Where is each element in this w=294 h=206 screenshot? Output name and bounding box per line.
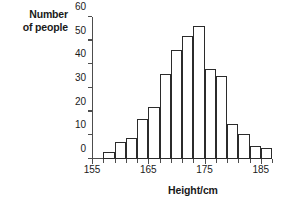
y-axis-tick-label: 30 bbox=[75, 73, 86, 83]
x-axis-tick bbox=[238, 159, 239, 163]
x-axis-tick-label: 165 bbox=[140, 165, 157, 175]
histogram-bar bbox=[171, 50, 182, 159]
histogram-bar bbox=[216, 76, 227, 159]
x-axis-tick bbox=[160, 159, 161, 163]
histogram-bar bbox=[205, 69, 216, 159]
y-axis-tick bbox=[88, 63, 92, 64]
y-axis-title: Number of people bbox=[2, 8, 68, 33]
x-axis-tick bbox=[115, 159, 116, 163]
histogram-bar bbox=[193, 26, 204, 159]
histogram-bar bbox=[250, 146, 261, 159]
x-axis-tick-label: 185 bbox=[252, 165, 269, 175]
y-axis-title-line-1: Number bbox=[2, 8, 68, 21]
x-axis-tick bbox=[182, 159, 183, 163]
y-axis-tick-label: 50 bbox=[75, 26, 86, 36]
x-axis-tick bbox=[137, 159, 138, 163]
x-axis-tick bbox=[126, 159, 127, 163]
histogram-bar bbox=[182, 36, 193, 159]
histogram-bar bbox=[137, 119, 148, 159]
histogram-bar bbox=[238, 134, 249, 159]
histogram-bar bbox=[126, 138, 137, 159]
y-axis-tick-label: 10 bbox=[75, 120, 86, 130]
y-axis-tick bbox=[88, 16, 92, 17]
y-axis-title-line-2: of people bbox=[2, 21, 68, 34]
y-axis-tick-label: 40 bbox=[75, 49, 86, 59]
histogram-bar bbox=[115, 142, 126, 159]
x-axis-tick bbox=[250, 159, 251, 163]
y-axis-line bbox=[92, 17, 93, 159]
histogram-chart: Number of people 01020304050601551651751… bbox=[0, 0, 294, 206]
histogram-bar bbox=[261, 148, 272, 159]
x-axis-tick bbox=[193, 159, 194, 163]
x-axis-tick bbox=[171, 159, 172, 163]
x-axis-tick bbox=[216, 159, 217, 163]
y-axis-tick bbox=[88, 134, 92, 135]
plot-area: 0102030405060155165175185 bbox=[92, 17, 272, 159]
histogram-bar bbox=[160, 74, 171, 159]
y-axis-tick-label: 60 bbox=[75, 2, 86, 12]
x-axis-tick bbox=[103, 159, 104, 163]
x-axis-title: Height/cm bbox=[168, 184, 218, 196]
x-axis-tick-label: 175 bbox=[196, 165, 213, 175]
histogram-bar bbox=[148, 107, 159, 159]
y-axis-tick bbox=[88, 39, 92, 40]
histogram-bar bbox=[227, 124, 238, 160]
y-axis-tick-label: 20 bbox=[75, 97, 86, 107]
x-axis-tick bbox=[227, 159, 228, 163]
histogram-bar bbox=[103, 152, 114, 159]
y-axis-tick bbox=[88, 87, 92, 88]
y-axis-tick bbox=[88, 110, 92, 111]
y-axis-tick-label: 0 bbox=[80, 144, 86, 154]
x-axis-tick bbox=[272, 159, 273, 163]
x-axis-tick-label: 155 bbox=[84, 165, 101, 175]
